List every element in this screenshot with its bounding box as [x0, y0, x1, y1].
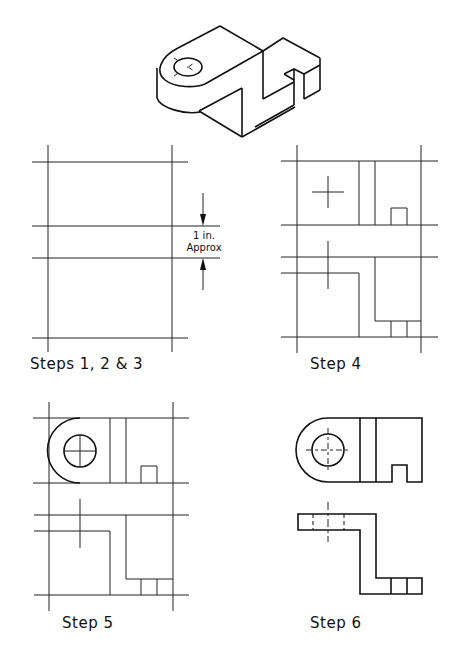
dimension-note-line1: 1 in.: [183, 230, 225, 242]
isometric-part-view: [157, 26, 320, 137]
sketching-steps-figure: Steps 1, 2 & 3 Step 4 Step 5 Step 6 1 in…: [0, 0, 457, 667]
dimension-note-line2: Approx: [183, 242, 225, 254]
label-step-4: Step 4: [310, 355, 361, 373]
label-step-6: Step 6: [310, 614, 361, 632]
panel-step-6: [296, 418, 422, 594]
label-step-5: Step 5: [62, 614, 113, 632]
label-steps-1-2-3: Steps 1, 2 & 3: [30, 355, 143, 373]
panel-step-5: [33, 402, 189, 611]
dimension-note: 1 in. Approx: [183, 230, 225, 254]
panel-step-4: [281, 145, 438, 353]
isometric-hole-icon: [174, 58, 202, 76]
